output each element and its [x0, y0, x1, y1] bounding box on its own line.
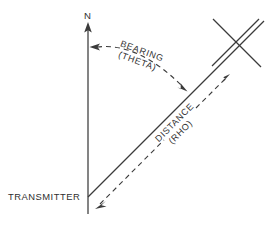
bearing-label-group: BEARING (THETA)	[115, 39, 165, 74]
distance-line-lower	[100, 140, 164, 204]
target-cross-stroke-b	[213, 19, 261, 67]
distance-arrowhead-origin-icon	[95, 201, 107, 209]
north-label: N	[84, 10, 91, 21]
transmitter-label: TRANSMITTER	[8, 191, 80, 202]
target-cross-stroke-a	[212, 19, 259, 66]
bearing-ray-line	[88, 21, 264, 197]
bearing-distance-diagram: N TRANSMITTER BEARING (THETA) DISTANCE (…	[0, 0, 276, 228]
diagram-canvas: N TRANSMITTER BEARING (THETA) DISTANCE (…	[0, 0, 276, 228]
distance-arrowhead-target-icon	[223, 74, 230, 82]
bearing-arc-arrowhead-right-icon	[177, 83, 187, 91]
distance-line-upper	[196, 79, 225, 108]
